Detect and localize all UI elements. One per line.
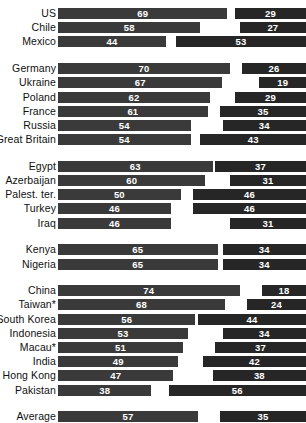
chart-row: Egypt6337 [0, 161, 306, 172]
bar-right: 24 [247, 299, 306, 310]
bar-right: 34 [223, 244, 306, 255]
bar-left-value: 47 [58, 370, 173, 381]
chart-row: Ukraine6719 [0, 77, 306, 88]
bar-left: 53 [58, 328, 188, 339]
row-label: China [0, 284, 56, 296]
bar-left: 61 [58, 106, 208, 117]
bar-left-value: 54 [58, 120, 191, 131]
bar-right-value: 24 [247, 299, 306, 310]
bar-left: 47 [58, 370, 173, 381]
bar-left-value: 61 [58, 106, 208, 117]
bar-left-value: 54 [58, 134, 191, 145]
bar-right: 34 [223, 120, 306, 131]
row-label: India [0, 355, 56, 367]
chart-row: Pakistan3856 [0, 385, 306, 396]
row-label: Great Britain [0, 133, 56, 145]
bar-right-value: 42 [203, 356, 306, 367]
bar-right: 31 [230, 175, 306, 186]
bar-right-value: 38 [213, 370, 306, 381]
bar-right: 53 [176, 36, 306, 47]
bar-left-value: 65 [58, 244, 218, 255]
bar-left: 49 [58, 356, 178, 367]
row-label: Mexico [0, 35, 56, 47]
bar-right: 31 [230, 218, 306, 229]
chart-row: Average5735 [0, 411, 306, 422]
bar-left-value: 67 [58, 77, 222, 88]
row-label: US [0, 7, 56, 19]
bar-left: 54 [58, 120, 191, 131]
bar-left-value: 49 [58, 356, 178, 367]
row-label: Chile [0, 21, 56, 33]
row-label: Nigeria [0, 258, 56, 270]
bar-right-value: 35 [220, 411, 306, 422]
bar-left-value: 74 [58, 285, 240, 296]
bar-right-value: 34 [223, 328, 306, 339]
bar-left: 46 [58, 203, 171, 214]
bar-left: 46 [58, 218, 171, 229]
bar-right: 37 [215, 161, 306, 172]
bar-left: 63 [58, 161, 213, 172]
bar-right: 44 [198, 314, 306, 325]
bar-left-value: 56 [58, 314, 195, 325]
row-label: Egypt [0, 160, 56, 172]
bar-left-value: 46 [58, 203, 171, 214]
row-label: Russia [0, 119, 56, 131]
bar-right: 46 [193, 203, 306, 214]
chart-row: Kenya6534 [0, 244, 306, 255]
row-label: France [0, 105, 56, 117]
bar-left: 68 [58, 299, 225, 310]
bar-left-value: 70 [58, 63, 230, 74]
bar-left-value: 57 [58, 411, 198, 422]
bar-left: 60 [58, 175, 205, 186]
bar-right: 19 [259, 77, 306, 88]
bar-right-value: 34 [223, 120, 306, 131]
bar-right: 42 [203, 356, 306, 367]
bar-right-value: 35 [220, 106, 306, 117]
chart-row: Macau*5137 [0, 342, 306, 353]
bar-right: 27 [240, 22, 306, 33]
row-label: Palest. ter. [0, 188, 56, 200]
chart-row: Mexico4453 [0, 36, 306, 47]
bar-right-value: 29 [235, 8, 306, 19]
chart-row: South Korea5644 [0, 314, 306, 325]
bar-right-value: 27 [240, 22, 306, 33]
bar-right-value: 19 [259, 77, 306, 88]
bar-left-value: 53 [58, 328, 188, 339]
bar-right-value: 34 [223, 259, 306, 270]
bar-left: 44 [58, 36, 166, 47]
bar-right: 35 [220, 106, 306, 117]
bar-left: 65 [58, 244, 218, 255]
bar-right-value: 31 [230, 218, 306, 229]
bar-left: 70 [58, 63, 230, 74]
chart-row: US6929 [0, 8, 306, 19]
chart-row: Germany7026 [0, 63, 306, 74]
bar-right-value: 26 [242, 63, 306, 74]
bar-right-value: 34 [223, 244, 306, 255]
chart-row: Iraq4631 [0, 218, 306, 229]
bar-right-value: 37 [215, 342, 306, 353]
bar-left: 65 [58, 259, 218, 270]
bar-right-value: 56 [169, 385, 306, 396]
bar-left: 56 [58, 314, 195, 325]
bar-right-value: 46 [193, 203, 306, 214]
chart-row: Hong Kong4738 [0, 370, 306, 381]
bar-right-value: 29 [235, 92, 306, 103]
bar-left-value: 65 [58, 259, 218, 270]
bar-left: 58 [58, 22, 200, 33]
chart-row: Poland6229 [0, 92, 306, 103]
row-label: Turkey [0, 202, 56, 214]
bar-right-value: 31 [230, 175, 306, 186]
bar-left-value: 63 [58, 161, 213, 172]
bar-right: 29 [235, 92, 306, 103]
row-label: Average [0, 410, 56, 422]
bar-right-value: 37 [215, 161, 306, 172]
bar-left: 57 [58, 411, 198, 422]
chart-row: Azerbaijan6031 [0, 175, 306, 186]
bar-left: 38 [58, 385, 151, 396]
bar-right-value: 43 [200, 134, 306, 145]
bar-right: 37 [215, 342, 306, 353]
bar-left: 69 [58, 8, 227, 19]
chart-row: France6135 [0, 106, 306, 117]
bar-left-value: 50 [58, 189, 181, 200]
bar-left: 62 [58, 92, 210, 103]
